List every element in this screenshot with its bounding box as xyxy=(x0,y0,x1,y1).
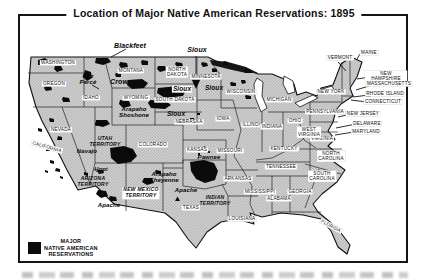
map-title: Location of Major Native American Reserv… xyxy=(66,7,361,19)
legend-reservation-swatch xyxy=(28,242,41,254)
map-legend: MAJOR NATIVE AMERICAN RESERVATIONS xyxy=(28,238,98,258)
legend-label: MAJOR NATIVE AMERICAN RESERVATIONS xyxy=(44,238,98,258)
map-figure: Location of Major Native American Reserv… xyxy=(0,0,428,280)
